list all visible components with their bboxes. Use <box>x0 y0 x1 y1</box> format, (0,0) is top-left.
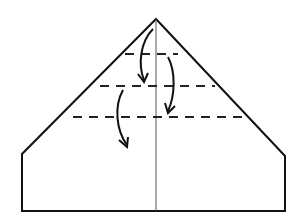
paper-airplane-fold-diagram <box>0 0 299 224</box>
diagram-canvas <box>0 0 299 224</box>
paper-outline <box>22 19 285 211</box>
